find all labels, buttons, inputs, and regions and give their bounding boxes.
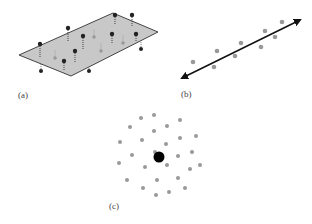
cluster-point <box>141 186 145 190</box>
regression-arrow <box>182 20 300 78</box>
cluster-point <box>176 176 180 180</box>
data-point <box>233 54 238 59</box>
data-point <box>280 20 285 25</box>
cluster-point <box>118 140 122 144</box>
point-above-plane <box>38 42 42 46</box>
panel-c-label: (c) <box>109 201 119 211</box>
cluster-point <box>167 190 171 194</box>
cluster-point <box>164 142 168 146</box>
cluster-point <box>183 186 187 190</box>
point-above-plane <box>73 49 77 53</box>
point-near-plane <box>92 35 96 39</box>
data-point <box>263 29 268 34</box>
panel-a-label: (a) <box>18 90 28 100</box>
cluster-point <box>165 124 169 128</box>
cluster-point <box>139 116 143 120</box>
cluster-center <box>154 152 165 163</box>
cluster-point <box>125 178 129 182</box>
cluster-point <box>176 154 180 158</box>
data-point <box>273 35 278 40</box>
point-above-plane <box>66 26 70 30</box>
point-near-plane <box>99 49 103 53</box>
cluster-point <box>152 129 156 133</box>
cluster-point <box>154 193 158 197</box>
data-point <box>212 65 217 70</box>
point-above-plane <box>81 34 85 38</box>
cluster-point <box>190 150 194 154</box>
cluster-point <box>178 136 182 140</box>
point-near-plane <box>121 41 125 45</box>
cluster-point <box>155 178 159 182</box>
point-above-plane <box>110 32 114 36</box>
panel-b-label: (b) <box>181 89 192 99</box>
figure-canvas <box>0 0 312 224</box>
panel-c-cluster-diagram <box>117 113 202 197</box>
point-near-plane <box>53 56 57 60</box>
cluster-point <box>198 163 202 167</box>
cluster-point <box>165 163 169 167</box>
cluster-point <box>140 138 144 142</box>
data-point <box>239 41 244 46</box>
cluster-point <box>152 113 156 117</box>
cluster-point <box>178 118 182 122</box>
cluster-point <box>143 165 147 169</box>
data-point <box>215 49 220 54</box>
point-below-plane <box>39 69 43 73</box>
cluster-point <box>128 125 132 129</box>
cluster-point <box>188 167 192 171</box>
data-point <box>259 45 264 50</box>
point-below-plane <box>87 69 91 73</box>
cluster-point <box>117 161 121 165</box>
cluster-point <box>130 153 134 157</box>
point-above-plane <box>134 32 138 36</box>
point-above-plane <box>62 59 66 63</box>
panel-b-line-fit-diagram <box>182 20 300 78</box>
data-point <box>191 60 196 65</box>
point-above-plane <box>130 13 134 17</box>
point-below-plane <box>139 47 143 51</box>
cluster-point <box>194 134 198 138</box>
point-above-plane <box>113 13 117 17</box>
panel-a-plane-diagram <box>19 13 158 76</box>
